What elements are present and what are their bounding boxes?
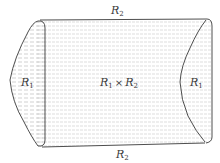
- label-bottom-r2: R2: [115, 148, 129, 162]
- label-center-product: R1×R2: [99, 76, 138, 90]
- label-top-r2: R2: [110, 4, 124, 18]
- cartesian-product-diagram: R2 R2 R1 R1 R1×R2: [0, 0, 220, 163]
